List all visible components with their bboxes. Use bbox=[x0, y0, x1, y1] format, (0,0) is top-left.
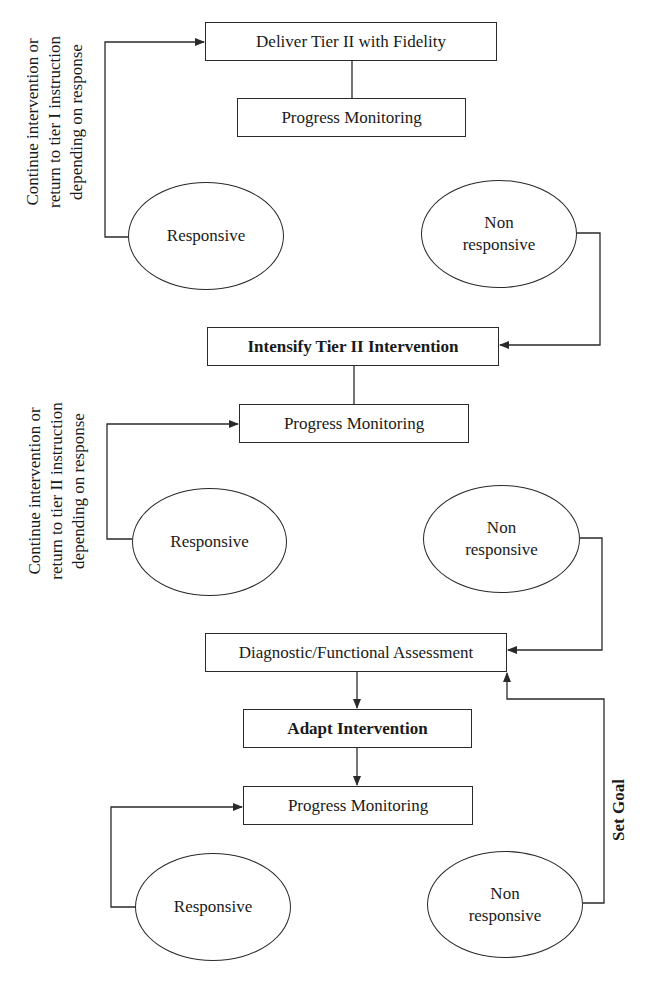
nonresponsive-label-line2: responsive bbox=[463, 234, 536, 256]
adapt-intervention-box: Adapt Intervention bbox=[243, 709, 472, 748]
nonresponsive-label-line1: Non bbox=[490, 883, 519, 905]
responsive-label: Responsive bbox=[170, 531, 248, 553]
side-note-tier2: Continue intervention or return to tier … bbox=[24, 385, 90, 597]
diagnostic-assessment-label: Diagnostic/Functional Assessment bbox=[239, 643, 474, 663]
diagnostic-assessment-box: Diagnostic/Functional Assessment bbox=[205, 633, 507, 672]
side-note-line: return to tier I instruction bbox=[44, 16, 66, 228]
progress-monitoring-box-3: Progress Monitoring bbox=[243, 786, 473, 825]
intensify-tier2-box: Intensify Tier II Intervention bbox=[207, 327, 499, 366]
responsive-oval-2: Responsive bbox=[132, 488, 287, 596]
side-note-line: Continue intervention or bbox=[22, 16, 44, 228]
intensify-tier2-label: Intensify Tier II Intervention bbox=[247, 337, 458, 357]
nonresponsive-oval-2: Non responsive bbox=[423, 485, 580, 593]
set-goal-label: Set Goal bbox=[609, 779, 629, 841]
nonresponsive-label-line1: Non bbox=[484, 212, 513, 234]
progress-monitoring-box-1: Progress Monitoring bbox=[237, 98, 466, 137]
side-note-line: Continue intervention or bbox=[24, 385, 46, 597]
side-note-line: return to tier II instruction bbox=[46, 385, 68, 597]
progress-monitoring-label: Progress Monitoring bbox=[284, 414, 424, 434]
progress-monitoring-box-2: Progress Monitoring bbox=[239, 404, 469, 443]
side-note-line: depending on response bbox=[68, 385, 90, 597]
responsive-oval-3: Responsive bbox=[135, 853, 291, 961]
connector-lines bbox=[0, 0, 647, 987]
side-note-line: depending on response bbox=[66, 16, 88, 228]
responsive-label: Responsive bbox=[174, 896, 252, 918]
nonresponsive-oval-3: Non responsive bbox=[427, 851, 583, 958]
deliver-tier2-label: Deliver Tier II with Fidelity bbox=[256, 32, 446, 52]
side-note-tier1: Continue intervention or return to tier … bbox=[22, 16, 88, 228]
progress-monitoring-label: Progress Monitoring bbox=[281, 108, 421, 128]
responsive-oval-1: Responsive bbox=[128, 182, 284, 290]
deliver-tier2-box: Deliver Tier II with Fidelity bbox=[205, 22, 497, 61]
responsive-label: Responsive bbox=[167, 225, 245, 247]
nonresponsive-label-line2: responsive bbox=[469, 905, 542, 927]
adapt-intervention-label: Adapt Intervention bbox=[287, 719, 427, 739]
nonresponsive-oval-1: Non responsive bbox=[421, 180, 577, 288]
nonresponsive-label-line1: Non bbox=[487, 517, 516, 539]
nonresponsive-label-line2: responsive bbox=[465, 539, 538, 561]
progress-monitoring-label: Progress Monitoring bbox=[288, 796, 428, 816]
